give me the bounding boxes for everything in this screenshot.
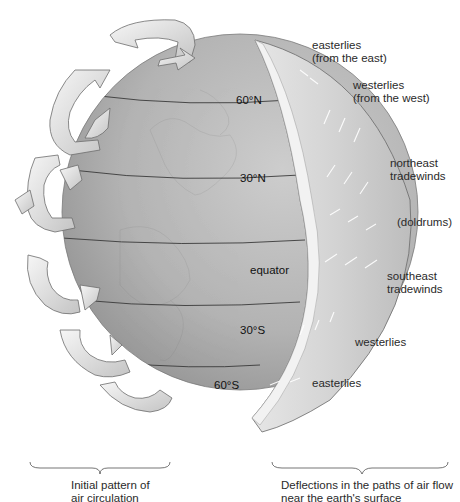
wind-label-westerlies-north: westerlies (from the west) xyxy=(353,79,430,105)
brackets xyxy=(30,462,448,474)
latitude-label-60n: 60°N xyxy=(236,94,262,106)
wind-label-doldrums: (doldrums) xyxy=(397,216,452,229)
caption-deflections: Deflections in the paths of air flow nea… xyxy=(281,479,453,502)
caption-initial-pattern: Initial pattern of air circulation xyxy=(71,479,150,502)
latitude-label-30s: 30°S xyxy=(240,324,265,336)
wind-label-westerlies-south: westerlies xyxy=(355,336,406,349)
wind-label-northeast-tradewinds: northeast tradewinds xyxy=(390,157,446,183)
circulation-arrow xyxy=(100,382,172,412)
wind-label-southeast-tradewinds: southeast tradewinds xyxy=(387,270,443,296)
globe-illustration xyxy=(0,0,460,502)
left-bracket xyxy=(30,462,170,474)
latitude-label-equator: equator xyxy=(250,264,289,276)
right-bracket xyxy=(272,462,448,474)
air-circulation-diagram: 60°N 30°N equator 30°S 60°S easterlies (… xyxy=(0,0,460,502)
latitude-label-60s: 60°S xyxy=(214,379,239,391)
latitude-label-30n: 30°N xyxy=(240,172,266,184)
wind-label-polar-easterlies-south: easterlies xyxy=(312,377,361,390)
wind-label-polar-easterlies-north: easterlies (from the east) xyxy=(312,39,387,65)
